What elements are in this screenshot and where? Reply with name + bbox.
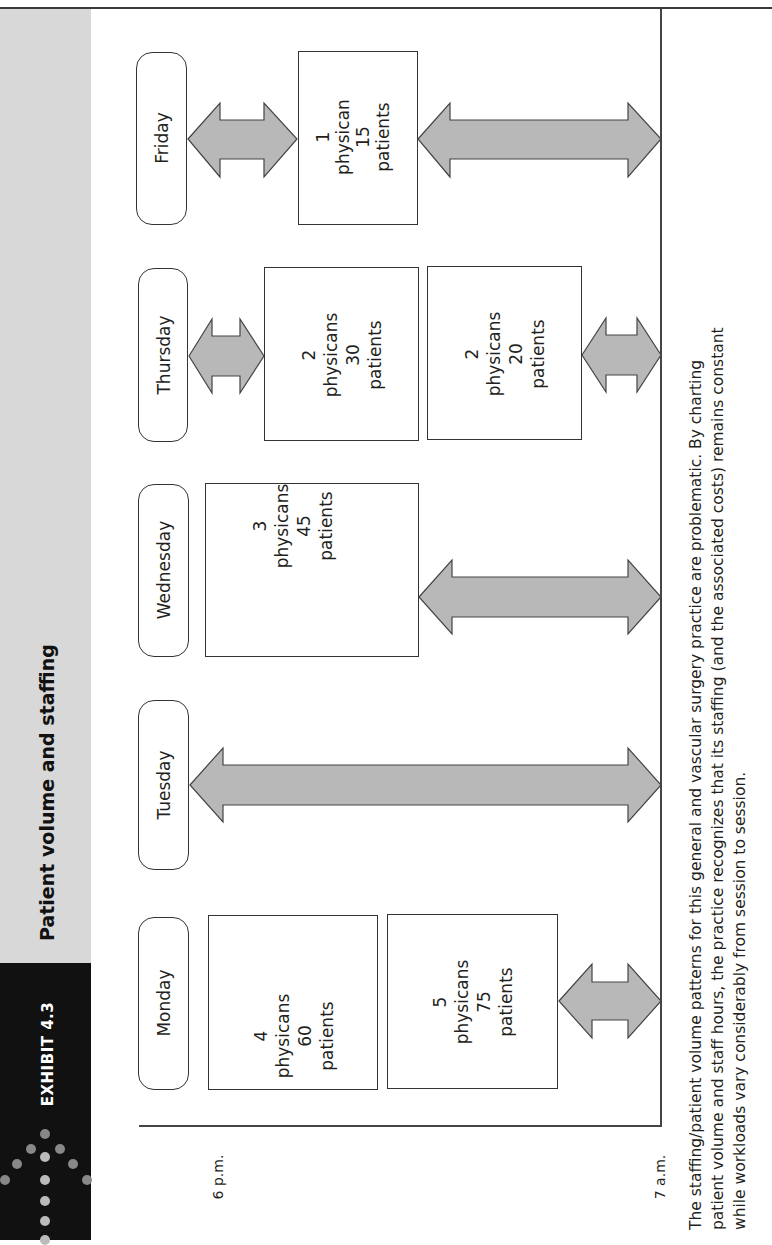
patient-count: 20 (505, 267, 527, 441)
day-name: Thursday (154, 315, 174, 394)
caption-line-2: patient volume and staff hours, the prac… (707, 10, 729, 1230)
physician-count: 2 (461, 267, 483, 441)
physician-count: 4 (250, 949, 272, 1124)
idle-arrow-icon (558, 962, 662, 1040)
decor-dot (26, 1144, 36, 1154)
patient-count: 60 (294, 949, 316, 1124)
idle-arrow-icon (189, 746, 662, 824)
physician-label: physican (333, 50, 353, 224)
decor-dot (12, 1159, 22, 1169)
idle-arrow-icon (187, 101, 298, 179)
day-name: Friday (152, 112, 172, 164)
day-label-friday: Friday (136, 52, 187, 225)
day-name: Monday (154, 969, 174, 1036)
decor-dot (0, 1175, 10, 1185)
decor-dot (82, 1175, 92, 1185)
exhibit-caption: The staffing/patient volume patterns for… (685, 10, 755, 1230)
patient-label: patients (495, 915, 517, 1090)
physician-count: 2 (298, 268, 320, 442)
decor-dot (40, 1152, 50, 1162)
caption-line-1: The staffing/patient volume patterns for… (685, 10, 707, 1230)
decor-dot (40, 1129, 50, 1139)
day-name: Tuesday (154, 750, 174, 819)
idle-arrow-icon (581, 316, 662, 394)
physician-label: physicans (451, 915, 473, 1090)
patient-count: 30 (342, 268, 364, 442)
patient-count: 75 (473, 915, 495, 1090)
physician-label: physicans (320, 268, 342, 442)
patient-count: 15 (353, 50, 373, 224)
day-label-thursday: Thursday (138, 268, 188, 442)
exhibit-label: EXHIBIT 4.3 (38, 989, 58, 1119)
patient-label: patients (527, 267, 549, 441)
patient-label: patients (316, 949, 338, 1124)
session-box-thursday-2: 2 physicans 20 patients (427, 266, 582, 440)
timeline-axis (139, 1125, 662, 1127)
day-label-wednesday: Wednesday (138, 484, 189, 657)
day-name: Wednesday (154, 521, 174, 619)
decor-dot (68, 1159, 78, 1169)
patient-label: patients (373, 50, 393, 224)
idle-arrow-icon (417, 101, 662, 179)
patient-label: patients (364, 268, 386, 442)
idle-arrow-icon (418, 558, 662, 636)
decor-dot (40, 1175, 50, 1185)
idle-arrow-icon (188, 317, 265, 395)
time-end-label: 7 a.m. (651, 1147, 669, 1207)
session-box-wednesday-1: 3 physicans 45 patients (205, 483, 419, 657)
session-box-monday-2: 5 physicans 75 patients (387, 914, 558, 1089)
decor-dot (55, 1144, 65, 1154)
decor-dot (40, 1235, 50, 1245)
day-label-tuesday: Tuesday (138, 700, 189, 870)
top-rule (0, 7, 772, 9)
caption-line-3: while workloads vary considerably from s… (729, 10, 751, 1230)
session-box-thursday-1: 2 physicans 30 patients (264, 267, 419, 441)
physician-count: 1 (313, 50, 333, 224)
patient-count: 45 (293, 439, 315, 613)
page-title: Patient volume and staffing (34, 581, 60, 941)
physician-label: physicans (483, 267, 505, 441)
decor-dot (40, 1196, 50, 1206)
day-label-monday: Monday (138, 917, 189, 1090)
session-box-friday-1: 1 physican 15 patients (298, 51, 418, 225)
physician-label: physicans (271, 439, 293, 613)
physician-count: 5 (429, 915, 451, 1090)
session-box-monday-1: 4 physicans 60 patients (208, 915, 378, 1090)
patient-label: patients (315, 439, 337, 613)
decor-dot (40, 1216, 50, 1226)
physician-count: 3 (249, 439, 271, 613)
time-start-label: 6 p.m. (209, 1147, 227, 1207)
physician-label: physicans (272, 949, 294, 1124)
